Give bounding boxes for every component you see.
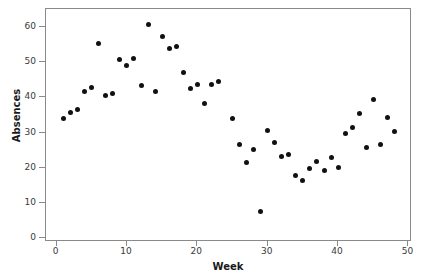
data-point: [131, 56, 136, 61]
data-point: [371, 97, 376, 102]
data-point: [181, 70, 186, 75]
data-point: [293, 173, 298, 178]
data-point: [279, 154, 284, 159]
data-point: [216, 79, 221, 84]
x-tick-mark: [196, 241, 197, 246]
y-tick-label: 10: [25, 197, 36, 207]
data-point: [357, 111, 362, 116]
data-point: [272, 140, 277, 145]
data-point: [364, 145, 369, 150]
x-tick-label: 30: [261, 246, 272, 256]
data-point: [343, 131, 348, 136]
data-point: [322, 168, 327, 173]
x-tick-mark: [126, 241, 127, 246]
data-point: [209, 82, 214, 87]
y-tick-label: 40: [25, 91, 36, 101]
data-point: [96, 41, 101, 46]
y-tick-label: 30: [25, 127, 36, 137]
x-tick-mark: [56, 241, 57, 246]
x-tick-mark: [267, 241, 268, 246]
data-point: [82, 89, 87, 94]
data-point: [110, 91, 115, 96]
y-tick-label: 0: [30, 232, 36, 242]
data-point: [265, 128, 270, 133]
y-tick-label: 50: [25, 56, 36, 66]
data-point: [385, 115, 390, 120]
data-point: [75, 107, 80, 112]
data-point: [314, 159, 319, 164]
data-point: [139, 83, 144, 88]
scatter-plot-figure: 0102030405060 Absences 01020304050 Week: [0, 0, 427, 280]
x-tick-label: 50: [402, 246, 413, 256]
data-point: [61, 116, 66, 121]
y-tick-label: 20: [25, 162, 36, 172]
data-point: [174, 44, 179, 49]
x-axis-label: Week: [45, 261, 411, 272]
data-point: [307, 166, 312, 171]
data-point: [392, 129, 397, 134]
data-point: [202, 101, 207, 106]
data-point: [237, 142, 242, 147]
data-point: [160, 34, 165, 39]
x-tick-mark: [407, 241, 408, 246]
data-point: [286, 152, 291, 157]
x-tick-mark: [337, 241, 338, 246]
x-tick-label: 20: [191, 246, 202, 256]
plot-area: [45, 8, 411, 241]
data-point: [230, 116, 235, 121]
data-point: [251, 147, 256, 152]
y-axis-label: Absences: [11, 76, 22, 156]
data-point: [103, 93, 108, 98]
data-point: [336, 165, 341, 170]
data-point: [258, 209, 263, 214]
data-point: [329, 155, 334, 160]
data-point: [300, 178, 305, 183]
data-point: [146, 22, 151, 27]
y-tick-label: 60: [25, 21, 36, 31]
x-tick-label: 10: [120, 246, 131, 256]
data-point: [188, 86, 193, 91]
data-point: [195, 82, 200, 87]
data-point: [167, 46, 172, 51]
x-tick-label: 40: [331, 246, 342, 256]
data-point: [89, 85, 94, 90]
data-point: [68, 110, 73, 115]
data-point: [378, 142, 383, 147]
data-point: [350, 125, 355, 130]
x-tick-label: 0: [53, 246, 59, 256]
data-point: [117, 57, 122, 62]
data-point: [124, 63, 129, 68]
data-point: [153, 89, 158, 94]
data-point: [244, 160, 249, 165]
